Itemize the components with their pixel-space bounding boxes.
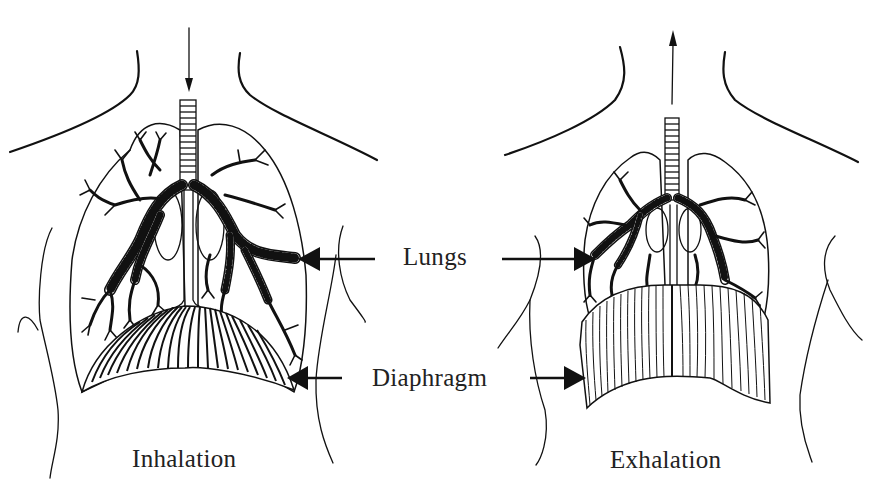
inhalation-neck-left	[10, 51, 139, 152]
exhalation-torso-left-lower	[530, 300, 547, 465]
inhalation-torso-right	[339, 226, 366, 322]
exhalation-figure	[498, 30, 862, 465]
exhalation-mediastinum	[670, 205, 677, 285]
exhalation-airflow-arrow-shaft	[672, 44, 673, 104]
exhalation-neck-right	[723, 52, 858, 162]
exhalation-torso-left	[498, 236, 540, 348]
diaphragm-label: Diaphragm	[372, 364, 487, 392]
lungs-pointer-left	[298, 247, 375, 271]
exhalation-torso-right	[825, 236, 862, 340]
breathing-diagram: Lungs Diaphragm Inhalation Exhalation	[0, 0, 876, 491]
inhalation-trachea	[180, 100, 196, 190]
lungs-pointer-right	[502, 247, 596, 271]
exhalation-torso-right-lower	[800, 280, 828, 462]
inhalation-torso-left	[39, 228, 58, 478]
exhalation-trachea	[665, 118, 679, 200]
lungs-label: Lungs	[403, 243, 467, 271]
exhalation-diaphragm	[580, 285, 770, 408]
inhalation-caption: Inhalation	[132, 445, 236, 473]
inhalation-arm-left	[18, 317, 38, 332]
inhalation-torso-right-lower	[316, 255, 336, 463]
exhalation-airflow-arrow-icon	[669, 30, 677, 46]
inhalation-figure	[10, 28, 377, 478]
inhalation-airflow-arrow-icon	[185, 78, 193, 92]
exhalation-caption: Exhalation	[610, 446, 721, 474]
exhalation-neck-left	[505, 47, 624, 155]
